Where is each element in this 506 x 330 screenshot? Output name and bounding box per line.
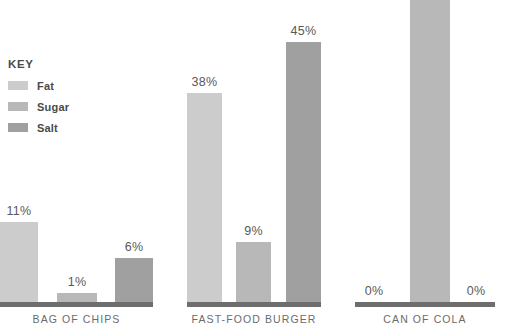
bar-group-fast-food-burger: 38%9%45%FAST-FOOD BURGER <box>187 0 321 330</box>
bar-slot-fat: 11% <box>0 0 38 302</box>
bar-slot-salt: 0% <box>457 0 495 302</box>
bar-value-label: 45% <box>291 24 317 38</box>
bar-chart: KEY Fat Sugar Salt 11%1%6%BAG OF CHIPS38… <box>0 0 506 330</box>
bar-slot-fat: 38% <box>187 0 222 302</box>
bar-group-bars: 38%9%45% <box>187 0 321 302</box>
bar-slot-sugar: 1% <box>57 0 97 302</box>
group-baseline <box>0 302 153 307</box>
bar-group-bars: 0%0% <box>355 0 495 302</box>
group-baseline <box>355 302 495 307</box>
bar-value-label: 0% <box>467 284 486 298</box>
bar-slot-fat: 0% <box>355 0 393 302</box>
group-baseline <box>187 302 321 307</box>
plot-area: 11%1%6%BAG OF CHIPS38%9%45%FAST-FOOD BUR… <box>0 0 506 330</box>
bar-value-label: 9% <box>244 224 263 238</box>
bar-bag-of-chips-sugar[interactable] <box>57 293 97 302</box>
group-label-fast-food-burger: FAST-FOOD BURGER <box>187 313 321 325</box>
group-label-can-of-cola: CAN OF COLA <box>355 313 495 325</box>
bar-value-label: 11% <box>7 204 32 218</box>
bar-bag-of-chips-fat[interactable] <box>0 222 38 302</box>
bar-group-bars: 11%1%6% <box>0 0 153 302</box>
bar-can-of-cola-sugar[interactable] <box>410 0 450 302</box>
bar-bag-of-chips-salt[interactable] <box>115 258 153 302</box>
bar-value-label: 38% <box>192 75 218 89</box>
bar-group-can-of-cola: 0%0%CAN OF COLA <box>355 0 495 330</box>
bar-slot-sugar <box>410 0 450 302</box>
bar-slot-salt: 45% <box>286 0 321 302</box>
bar-slot-sugar: 9% <box>236 0 271 302</box>
bar-value-label: 6% <box>125 240 144 254</box>
bar-value-label: 1% <box>68 275 87 289</box>
bar-slot-salt: 6% <box>115 0 153 302</box>
bar-fast-food-burger-sugar[interactable] <box>236 242 271 302</box>
bar-fast-food-burger-fat[interactable] <box>187 93 222 302</box>
bar-group-bag-of-chips: 11%1%6%BAG OF CHIPS <box>0 0 153 330</box>
group-label-bag-of-chips: BAG OF CHIPS <box>0 313 153 325</box>
bar-fast-food-burger-salt[interactable] <box>286 42 321 302</box>
bar-value-label: 0% <box>365 284 384 298</box>
